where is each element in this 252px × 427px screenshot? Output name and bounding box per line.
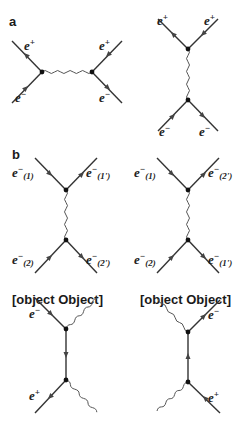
particle-label: e− (15, 89, 26, 105)
vertex-dot (64, 378, 69, 383)
photon-line (187, 49, 190, 100)
particle-label: e+ (208, 389, 219, 405)
particle-label: e−(2') (86, 251, 110, 268)
vertex-dot (186, 188, 191, 193)
particle-label: e+ (99, 37, 110, 53)
particle-label: e−(2) (12, 251, 34, 268)
particle-label: e−(1) (12, 164, 34, 181)
panel-label-a: a (9, 14, 17, 29)
arrow-icon (186, 353, 191, 359)
particle-label: e− (199, 123, 210, 139)
vertex-dot (186, 98, 191, 103)
vertex-dot (90, 70, 95, 75)
vertex-dot (64, 327, 69, 332)
vertex-dot (40, 70, 45, 75)
photon-line (157, 382, 188, 411)
panel-label-d: [object Object] (140, 292, 231, 307)
diagram-a-s-channel: e+ e− e+ e− (12, 37, 122, 105)
diagram-b-exchange: e−(1) e−(2') e−(2) e−(1') (134, 158, 232, 273)
diagram-c: e− e+ (29, 298, 97, 413)
diagram-b-direct: e−(1) e−(1') e−(2) e−(2') (12, 158, 110, 273)
vertex-dot (64, 188, 69, 193)
particle-label: e− (99, 89, 110, 105)
vertex-dot (186, 380, 191, 385)
particle-label: e−(1') (208, 251, 232, 268)
feynman-diagrams-figure: a e+ e− e+ e− e+ e+ e− e− b (0, 0, 252, 427)
particle-label: e−(1) (134, 164, 156, 181)
particle-label: e+ (204, 12, 215, 28)
photon-line (42, 71, 92, 74)
particle-label: e− (29, 305, 40, 321)
photon-line (65, 190, 68, 240)
panel-label-b: b (12, 147, 20, 162)
particle-label: e− (208, 306, 219, 322)
particle-label: e+ (29, 387, 40, 403)
vertex-dot (64, 238, 69, 243)
panel-label-c: [object Object] (12, 292, 103, 307)
particle-label: e+ (24, 37, 35, 53)
vertex-dot (186, 330, 191, 335)
particle-label: e−(2) (134, 251, 156, 268)
particle-label: e−(1') (86, 164, 110, 181)
particle-label: e− (159, 123, 170, 139)
particle-label: e−(2') (208, 164, 232, 181)
particle-label: e+ (157, 12, 168, 28)
diagram-d: e− e+ (157, 299, 220, 413)
arrow-icon (64, 352, 69, 358)
vertex-dot (186, 238, 191, 243)
diagram-a-t-channel: e+ e+ e− e− (157, 12, 218, 139)
photon-line (66, 380, 97, 412)
photon-line (187, 190, 190, 240)
vertex-dot (186, 47, 191, 52)
